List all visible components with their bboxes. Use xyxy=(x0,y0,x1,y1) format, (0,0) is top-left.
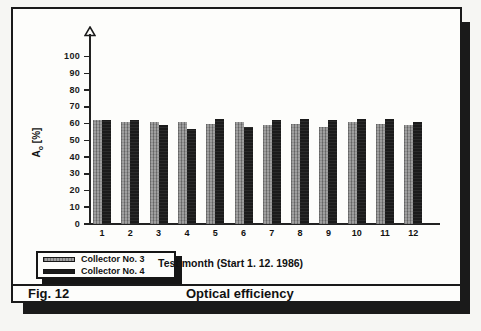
y-axis-title: Ao [%] xyxy=(31,111,44,175)
bar-collector-no-4-month-4 xyxy=(187,129,196,224)
y-tick-label: 40 xyxy=(46,152,80,163)
bar-collector-no-3-month-12 xyxy=(404,125,413,224)
y-tick-mark xyxy=(84,156,90,158)
y-tick-mark xyxy=(84,190,90,192)
y-tick-label: 90 xyxy=(46,68,80,79)
caption-bar: Fig. 12 Optical efficiency xyxy=(13,284,460,301)
bar-collector-no-3-month-10 xyxy=(348,122,357,224)
bar-collector-no-4-month-2 xyxy=(130,120,139,224)
y-tick-label: 20 xyxy=(46,185,80,196)
bar-collector-no-3-month-5 xyxy=(206,124,215,224)
y-tick-label: 80 xyxy=(46,85,80,96)
y-tick-label: 100 xyxy=(46,51,80,62)
bar-collector-no-4-month-12 xyxy=(413,122,422,224)
y-tick-mark xyxy=(84,206,90,208)
x-tick-label: 1 xyxy=(92,228,112,238)
y-axis-title-base: A xyxy=(31,150,42,157)
x-tick-label: 5 xyxy=(205,228,225,238)
x-tick-label: 7 xyxy=(262,228,282,238)
y-tick-mark xyxy=(84,140,90,142)
y-tick-label: 70 xyxy=(46,101,80,112)
x-tick-label: 10 xyxy=(347,228,367,238)
y-tick-mark xyxy=(84,106,90,108)
bar-collector-no-4-month-8 xyxy=(300,119,309,224)
x-axis-title: Test month (Start 1. 12. 1986) xyxy=(158,257,303,269)
x-tick-label: 3 xyxy=(149,228,169,238)
x-tick-label: 8 xyxy=(290,228,310,238)
x-tick-label: 11 xyxy=(375,228,395,238)
y-tick-mark xyxy=(84,73,90,75)
figure-panel: Ao [%] 0102030405060708090100 1234567891… xyxy=(11,7,462,303)
y-tick-label: 50 xyxy=(46,135,80,146)
figure-number: Fig. 12 xyxy=(28,286,69,301)
figure-title: Optical efficiency xyxy=(186,286,294,301)
y-axis-title-unit: [%] xyxy=(31,128,42,146)
bar-collector-no-4-month-10 xyxy=(357,119,366,224)
bar-collector-no-3-month-9 xyxy=(319,127,328,224)
legend-label-collector-4: Collector No. 4 xyxy=(81,266,145,276)
y-tick-label: 60 xyxy=(46,118,80,129)
bar-collector-no-4-month-3 xyxy=(159,125,168,224)
y-tick-mark xyxy=(84,223,90,225)
bar-collector-no-4-month-6 xyxy=(244,127,253,224)
x-tick-label: 9 xyxy=(318,228,338,238)
bar-collector-no-4-month-5 xyxy=(215,119,224,224)
y-tick-mark xyxy=(84,123,90,125)
bar-collector-no-3-month-2 xyxy=(121,122,130,224)
x-tick-label: 6 xyxy=(234,228,254,238)
bar-collector-no-4-month-7 xyxy=(272,120,281,224)
bar-collector-no-4-month-1 xyxy=(102,120,111,224)
y-tick-mark xyxy=(84,173,90,175)
bar-collector-no-3-month-6 xyxy=(235,122,244,224)
y-tick-label: 0 xyxy=(46,219,80,230)
bar-collector-no-3-month-1 xyxy=(93,120,102,224)
y-tick-label: 10 xyxy=(46,202,80,213)
legend-item-collector-3: Collector No. 3 xyxy=(43,254,169,264)
legend-swatch-collector-3 xyxy=(43,257,75,262)
legend-swatch-collector-4 xyxy=(43,269,75,274)
bar-collector-no-3-month-11 xyxy=(376,124,385,224)
axis-arrow-icon xyxy=(84,23,96,34)
bar-collector-no-3-month-4 xyxy=(178,122,187,224)
y-tick-mark xyxy=(84,89,90,91)
legend-item-collector-4: Collector No. 4 xyxy=(43,266,169,276)
x-tick-label: 4 xyxy=(177,228,197,238)
bar-collector-no-4-month-11 xyxy=(385,119,394,224)
x-tick-label: 12 xyxy=(403,228,423,238)
bar-collector-no-3-month-7 xyxy=(263,125,272,224)
legend-label-collector-3: Collector No. 3 xyxy=(81,254,145,264)
plot-area: 0102030405060708090100 123456789101112 xyxy=(90,40,440,224)
x-tick-label: 2 xyxy=(120,228,140,238)
bar-collector-no-3-month-8 xyxy=(291,124,300,224)
bar-collector-no-3-month-3 xyxy=(150,122,159,224)
y-axis-line xyxy=(89,34,91,224)
y-tick-label: 30 xyxy=(46,168,80,179)
legend-box: Collector No. 3 Collector No. 4 xyxy=(36,251,176,279)
y-tick-mark xyxy=(84,56,90,58)
y-axis-title-subscript: o xyxy=(37,146,44,150)
bar-collector-no-4-month-9 xyxy=(328,120,337,224)
